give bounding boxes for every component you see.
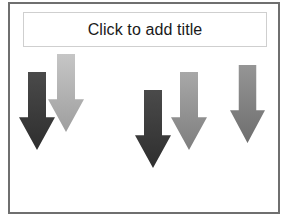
title-placeholder-text: Click to add title	[88, 21, 203, 39]
down-arrow-icon	[135, 90, 171, 168]
down-arrow-shape-4[interactable]	[171, 72, 207, 150]
down-arrow-shape-2[interactable]	[48, 54, 84, 132]
down-arrow-icon	[171, 72, 207, 150]
down-arrow-icon	[230, 65, 265, 143]
title-placeholder[interactable]: Click to add title	[23, 12, 267, 47]
slide-canvas: Click to add title	[0, 0, 283, 217]
down-arrow-icon	[48, 54, 84, 132]
down-arrow-shape-5[interactable]	[230, 65, 265, 143]
down-arrow-shape-3[interactable]	[135, 90, 171, 168]
